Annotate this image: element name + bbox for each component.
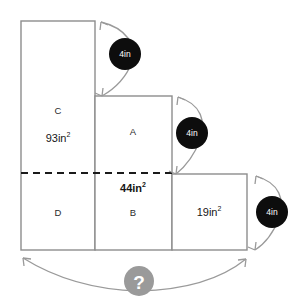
figure-canvas: C D A B 93in2 44in2 19in2 [0,0,297,305]
region-label-a: A [130,126,137,137]
badge-right-label: 4in [266,207,278,217]
badge-right: 4in [256,196,288,228]
question-marker-label: ? [133,272,145,293]
badge-middle-label: 4in [186,128,198,138]
region-label-c: C [55,105,62,116]
badge-top-label: 4in [119,49,131,59]
question-marker: ? [124,266,154,296]
badge-top: 4in [109,38,141,70]
badge-middle: 4in [176,117,208,149]
geometry-figure: C D A B 93in2 44in2 19in2 [0,0,297,305]
region-label-d: D [55,207,62,218]
region-label-b: B [130,207,136,218]
